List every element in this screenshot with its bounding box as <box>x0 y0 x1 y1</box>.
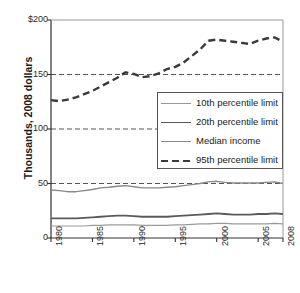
x-tick-label: 2005 <box>262 226 271 246</box>
y-axis-title: Thousands, 2008 dollars <box>22 18 34 218</box>
legend-label: 95th percentile limit <box>196 154 278 165</box>
x-tick-label: 2008 <box>287 226 296 246</box>
series-line <box>51 181 283 191</box>
legend-label: 20th percentile limit <box>196 116 278 127</box>
legend-swatch-icon <box>161 136 191 146</box>
legend-item: Median income <box>158 131 282 150</box>
legend-label: 10th percentile limit <box>196 97 278 108</box>
legend-swatch-icon <box>161 117 191 127</box>
y-tick-label: 50 <box>14 179 48 188</box>
x-tick-label: 1995 <box>179 226 188 246</box>
series-line <box>51 223 283 226</box>
legend-item: 20th percentile limit <box>158 112 282 131</box>
chart-container: Thousands, 2008 dollars 050100150$200 19… <box>0 0 300 293</box>
legend-swatch-icon <box>161 98 191 108</box>
x-tick-label: 1980 <box>55 226 64 246</box>
chart-legend: 10th percentile limit20th percentile lim… <box>157 92 283 169</box>
y-tick-label: 0 <box>14 233 48 242</box>
legend-item: 10th percentile limit <box>158 93 282 112</box>
legend-swatch-line <box>161 160 191 162</box>
x-tick-label: 1985 <box>96 226 105 246</box>
legend-swatch-line <box>161 103 191 104</box>
legend-swatch-icon <box>161 155 191 165</box>
legend-swatch-line <box>161 122 191 124</box>
series-line <box>51 213 283 218</box>
legend-item: 95th percentile limit <box>158 150 282 169</box>
x-tick-label: 1990 <box>138 226 147 246</box>
legend-label: Median income <box>196 135 260 146</box>
legend-swatch-line <box>161 141 191 142</box>
y-tick-label: 150 <box>14 70 48 79</box>
y-tick-label: 100 <box>14 124 48 133</box>
x-tick-label: 2000 <box>221 226 230 246</box>
y-tick-label: $200 <box>14 15 48 24</box>
